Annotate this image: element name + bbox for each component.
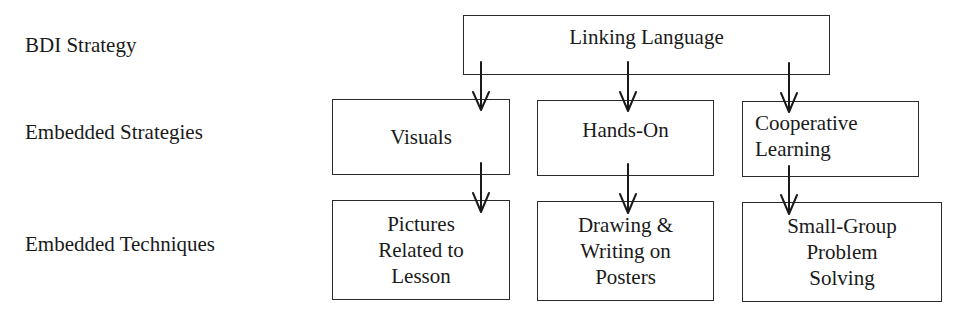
node-label: Cooperative Learning xyxy=(755,110,858,162)
node-drawing-writing-posters: Drawing & Writing on Posters xyxy=(537,201,714,301)
node-linking-language: Linking Language xyxy=(463,15,830,75)
node-label: Drawing & Writing on Posters xyxy=(578,212,673,290)
node-hands-on: Hands-On xyxy=(537,100,714,176)
node-cooperative-learning: Cooperative Learning xyxy=(742,101,919,177)
row-label-embedded-strategies: Embedded Strategies xyxy=(25,122,203,143)
row-label-bdi-strategy: BDI Strategy xyxy=(25,35,136,56)
node-label: Hands-On xyxy=(582,117,668,143)
node-label: Linking Language xyxy=(569,24,724,50)
node-visuals: Visuals xyxy=(332,99,510,175)
node-pictures-related-to-lesson: Pictures Related to Lesson xyxy=(332,200,510,300)
row-label-embedded-techniques: Embedded Techniques xyxy=(25,234,215,255)
node-small-group-problem-solving: Small-Group Problem Solving xyxy=(742,202,942,302)
node-label: Pictures Related to Lesson xyxy=(378,211,464,289)
node-label: Visuals xyxy=(390,124,452,150)
node-label: Small-Group Problem Solving xyxy=(787,213,897,291)
